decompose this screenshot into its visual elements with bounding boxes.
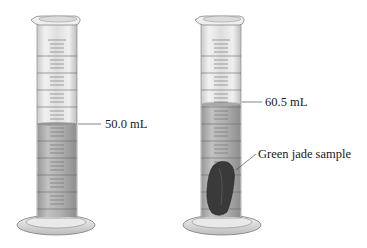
left-volume-label: 50.0 mL — [105, 118, 147, 131]
right-volume-label: 60.5 mL — [265, 96, 307, 109]
sample-label: Green jade sample — [258, 148, 351, 161]
right-graduated-cylinder — [183, 16, 262, 235]
left-graduated-cylinder — [17, 16, 101, 235]
cylinders-drawing — [0, 0, 367, 248]
displacement-figure: 50.0 mL 60.5 mL Green jade sample — [0, 0, 367, 248]
